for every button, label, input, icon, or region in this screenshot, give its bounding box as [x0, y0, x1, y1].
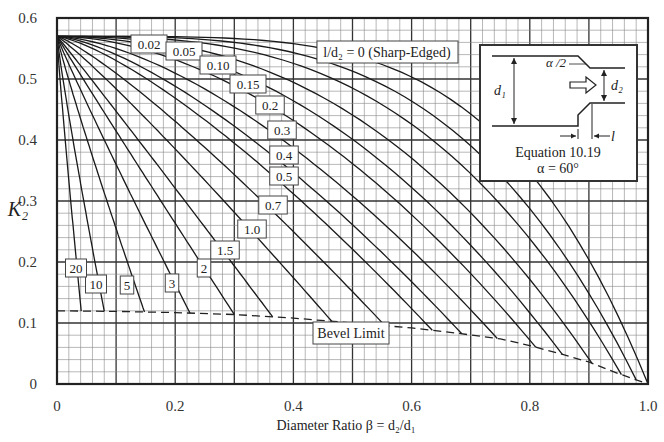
x-tick-label: 1.0 — [639, 398, 658, 414]
curve-label: 0.3 — [274, 123, 290, 138]
curve-label: 20 — [70, 261, 83, 276]
x-axis-title: Diameter Ratio β = d₂/d₁ — [276, 418, 415, 433]
curve-label: 0.4 — [276, 148, 293, 163]
x-tick-label: 0.8 — [520, 398, 539, 414]
inset-diagram: α /2 d₁ d₂ l Equation 10.19 α = 60° — [480, 45, 637, 181]
curve-label: 0.7 — [265, 198, 282, 213]
inset-d1: d₁ — [494, 83, 506, 98]
curve-label: 0.05 — [173, 44, 196, 59]
curve-label: 5 — [124, 278, 131, 293]
curve-label: 0.02 — [138, 37, 161, 52]
y-tick-label: 0.5 — [18, 71, 37, 87]
inset-d2: d₂ — [611, 78, 623, 93]
curve-label: 3 — [169, 276, 176, 291]
y-tick-label: 0 — [30, 376, 38, 392]
curve-label: 2 — [201, 261, 208, 276]
inset-alpha: α = 60° — [537, 161, 579, 176]
x-tick-label: 0.6 — [402, 398, 421, 414]
inset-l: l — [611, 129, 615, 144]
curve-label: 0.5 — [276, 169, 292, 184]
curve-label: 1.5 — [217, 243, 233, 258]
k2-vs-beta-chart: 00.20.40.60.81.000.10.20.30.40.50.6 0.02… — [0, 0, 664, 442]
curve-label: 0.10 — [207, 58, 230, 73]
curve-label: 0.15 — [237, 77, 260, 92]
bevel-limit-label: Bevel Limit — [317, 326, 384, 341]
y-tick-label: 0.2 — [18, 254, 37, 270]
y-tick-label: 0.4 — [18, 132, 37, 148]
inset-equation: Equation 10.19 — [515, 145, 601, 160]
y-axis-title: K₂ — [7, 198, 28, 220]
y-tick-label: 0.6 — [18, 10, 37, 26]
x-tick-label: 0.4 — [284, 398, 303, 414]
curve-label: 1.0 — [244, 222, 260, 237]
inset-half-angle: α /2 — [546, 55, 567, 70]
x-tick-label: 0 — [53, 398, 61, 414]
x-tick-label: 0.2 — [166, 398, 185, 414]
sharp-edged-label: l/d₂ = 0 (Sharp-Edged) — [323, 45, 451, 61]
curve-label: 0.2 — [262, 98, 278, 113]
y-tick-label: 0.1 — [18, 315, 37, 331]
curve-label: 10 — [90, 277, 103, 292]
